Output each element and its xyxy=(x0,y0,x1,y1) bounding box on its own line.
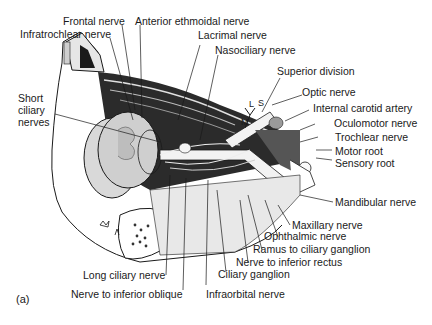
label-nasociliary-nerve: Nasociliary nerve xyxy=(215,44,296,56)
marker-s: S xyxy=(258,97,264,109)
marker-l: L xyxy=(249,98,254,110)
label-nerve-to-inferior-rectus: Nerve to inferior rectus xyxy=(236,256,342,268)
label-internal-carotid-artery: Internal carotid artery xyxy=(313,102,412,114)
marker-m: M xyxy=(241,116,249,128)
label-anterior-ethmoidal-nerve: Anterior ethmoidal nerve xyxy=(135,15,249,27)
label-ophthalmic-nerve: Ophthalmic nerve xyxy=(264,230,346,242)
orbit-nerve-diagram: Frontal nerve Infratrochlear nerve Anter… xyxy=(0,0,432,325)
teeth-glyphs xyxy=(100,221,119,235)
label-superior-division: Superior division xyxy=(277,65,355,77)
label-ramus-to-ciliary-ganglion: Ramus to ciliary ganglion xyxy=(253,243,370,255)
label-infratrochlear-nerve: Infratrochlear nerve xyxy=(20,28,111,40)
label-motor-root: Motor root xyxy=(335,145,383,157)
panel-label: (a) xyxy=(16,293,29,305)
label-short-ciliary-nerves: Short ciliary nerves xyxy=(18,92,68,128)
label-infraorbital-nerve: Infraorbital nerve xyxy=(206,288,285,300)
label-trochlear-nerve: Trochlear nerve xyxy=(335,131,408,143)
label-lacrimal-nerve: Lacrimal nerve xyxy=(198,29,267,41)
label-ciliary-ganglion: Ciliary ganglion xyxy=(218,268,290,280)
label-frontal-nerve: Frontal nerve xyxy=(63,15,125,27)
label-mandibular-nerve: Mandibular nerve xyxy=(335,196,416,208)
label-long-ciliary-nerve: Long ciliary nerve xyxy=(83,269,165,281)
label-sensory-root: Sensory root xyxy=(335,157,395,169)
label-optic-nerve: Optic nerve xyxy=(302,86,356,98)
label-nerve-to-inferior-oblique: Nerve to inferior oblique xyxy=(71,288,182,300)
label-oculomotor-nerve: Oculomotor nerve xyxy=(334,117,417,129)
